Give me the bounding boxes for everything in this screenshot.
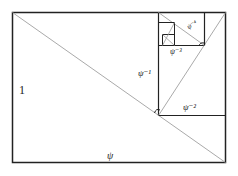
label-one: 1 [19, 83, 25, 97]
golden-rectangle-diagram: 1 ψ ψ⁻¹ ψ⁻² ψ⁻³ ψ⁻⁴ [0, 0, 238, 176]
label-psi: ψ [107, 150, 114, 161]
right-angle-mark-1 [155, 109, 161, 113]
label-psi-minus-1: ψ⁻¹ [138, 68, 151, 78]
label-psi-minus-2: ψ⁻² [183, 102, 196, 112]
main-diagonal [13, 13, 226, 163]
label-psi-minus-4: ψ⁻⁴ [185, 19, 199, 31]
diagonal-5 [163, 35, 175, 46]
label-psi-minus-3: ψ⁻³ [170, 47, 182, 56]
